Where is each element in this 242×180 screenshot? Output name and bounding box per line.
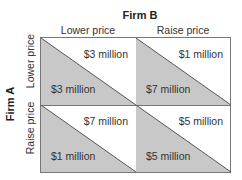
column-player-label: Firm B (0, 9, 242, 21)
firm-b-payoff: $1 million (179, 48, 223, 60)
row-player-label: Firm A (4, 84, 16, 124)
cell-raise-raise: $5 million $5 million (136, 105, 231, 172)
firm-a-payoff: $7 million (146, 83, 190, 95)
cell-raise-lower: $7 million $1 million (41, 105, 137, 172)
firm-b-payoff: $7 million (84, 115, 128, 127)
firm-a-payoff: $5 million (146, 150, 190, 162)
firm-b-payoff: $5 million (179, 115, 223, 127)
firm-b-payoff: $3 million (84, 48, 128, 60)
firm-a-payoff: $3 million (51, 83, 95, 95)
cell-lower-lower: $3 million $3 million (41, 38, 137, 106)
column-header-raise-price: Raise price (135, 24, 231, 36)
row-header-raise-price: Raise price (24, 82, 36, 174)
payoff-matrix: $3 million $3 million $1 million $7 mill… (40, 37, 231, 173)
firm-a-payoff: $1 million (51, 150, 95, 162)
cell-lower-raise: $1 million $7 million (136, 38, 231, 106)
column-header-lower-price: Lower price (40, 24, 136, 36)
